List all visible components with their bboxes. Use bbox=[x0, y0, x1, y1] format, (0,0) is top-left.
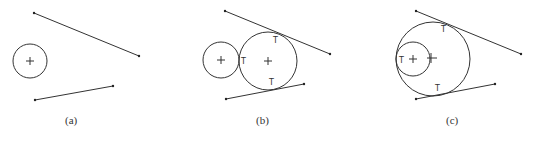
center-cross-icon bbox=[409, 55, 417, 63]
tangent-label: T bbox=[398, 56, 404, 65]
endpoint bbox=[138, 55, 140, 57]
caption-a: (a) bbox=[65, 114, 78, 127]
endpoint bbox=[329, 53, 331, 55]
tangent-label: T bbox=[268, 78, 274, 87]
lower-line bbox=[416, 84, 495, 99]
endpoint bbox=[224, 10, 226, 12]
tangent-circle bbox=[396, 22, 470, 96]
endpoint bbox=[415, 98, 417, 100]
endpoint bbox=[494, 83, 496, 85]
endpoint bbox=[225, 98, 227, 100]
upper-line bbox=[225, 11, 330, 54]
center-cross-icon bbox=[427, 53, 437, 63]
endpoint bbox=[520, 53, 522, 55]
endpoint bbox=[33, 12, 35, 14]
upper-line bbox=[34, 13, 139, 56]
tangent-label: T bbox=[434, 84, 440, 93]
endpoint bbox=[112, 85, 114, 87]
endpoint bbox=[415, 10, 417, 12]
endpoint bbox=[303, 83, 305, 85]
caption-c: (c) bbox=[446, 114, 459, 127]
center-cross-icon bbox=[217, 56, 225, 64]
panel-a: (a) bbox=[13, 12, 140, 127]
tangent-label: T bbox=[240, 57, 246, 66]
center-cross-icon bbox=[264, 57, 272, 65]
tangent-label: T bbox=[272, 36, 278, 45]
tangent-label: T bbox=[440, 25, 446, 34]
caption-b: (b) bbox=[256, 114, 269, 127]
tangent-circles-figure: (a) T T T (b) T T T (c) bbox=[0, 0, 533, 141]
panel-b: T T T (b) bbox=[203, 10, 331, 127]
panel-c: T T T (c) bbox=[396, 10, 522, 127]
endpoint bbox=[34, 99, 36, 101]
lower-line bbox=[35, 86, 113, 100]
lower-line bbox=[226, 84, 304, 99]
center-cross-icon bbox=[26, 57, 34, 65]
